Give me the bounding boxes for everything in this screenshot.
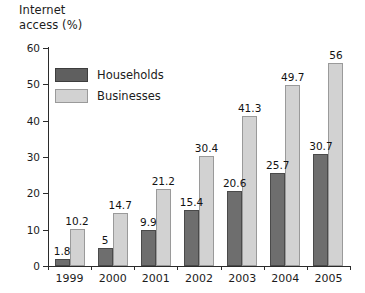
y-axis-tick-label-wrap: 30 — [8, 152, 40, 163]
x-axis-line — [48, 266, 350, 267]
x-axis-tick — [91, 266, 92, 270]
chart-axis-title: Internet access (%) — [19, 3, 139, 32]
households-swatch-icon — [55, 68, 88, 82]
x-axis-tick — [350, 266, 351, 270]
bar-value-label: 41.3 — [230, 103, 270, 114]
bar-value-label: 15.4 — [172, 197, 212, 208]
x-axis-tick-label: 2004 — [262, 272, 308, 285]
businesses-swatch-icon — [55, 89, 88, 103]
x-axis-tick — [134, 266, 135, 270]
bar-value-label: 10.2 — [57, 216, 97, 227]
bar-value-label: 25.7 — [258, 160, 298, 171]
y-axis-tick-label: 50 — [16, 79, 40, 90]
bar-households-2005 — [313, 154, 328, 266]
x-axis-tick — [48, 266, 49, 270]
legend-label-households: Households — [97, 69, 164, 81]
bar-businesses-2002 — [199, 156, 214, 266]
bar-households-2004 — [270, 173, 285, 266]
bar-households-2003 — [227, 191, 242, 266]
x-axis-tick — [177, 266, 178, 270]
legend-item-households: Households — [55, 66, 164, 84]
y-axis-tick-label-wrap: 50 — [8, 79, 40, 90]
x-axis-tick-label: 2005 — [305, 272, 351, 285]
bar-households-1999 — [55, 259, 70, 266]
y-axis-tick-label-wrap: 20 — [8, 188, 40, 199]
bar-value-label: 1.8 — [42, 246, 82, 257]
y-axis-tick-label-wrap: 60 — [8, 43, 40, 54]
bar-businesses-2003 — [242, 116, 257, 266]
bar-value-label: 9.9 — [128, 217, 168, 228]
bar-value-label: 14.7 — [100, 200, 140, 211]
y-axis-tick-label: 30 — [16, 152, 40, 163]
y-axis-tick-label: 20 — [16, 188, 40, 199]
bar-households-2000 — [98, 248, 113, 266]
y-axis-tick-label-wrap: 40 — [8, 116, 40, 127]
bar-households-2001 — [141, 230, 156, 266]
y-axis-tick-label: 10 — [16, 225, 40, 236]
bar-value-label: 20.6 — [215, 178, 255, 189]
y-axis-tick-label: 60 — [16, 43, 40, 54]
x-axis-tick — [307, 266, 308, 270]
x-axis-tick — [221, 266, 222, 270]
x-axis-tick-label: 2003 — [219, 272, 265, 285]
y-axis-tick-label: 40 — [16, 116, 40, 127]
bar-value-label: 30.4 — [187, 143, 227, 154]
bar-value-label: 30.7 — [301, 141, 341, 152]
x-axis-tick-label: 2001 — [133, 272, 179, 285]
y-axis-tick-label-wrap: 0 — [8, 261, 40, 272]
x-axis-tick-label: 2000 — [90, 272, 136, 285]
x-axis-tick-label: 2002 — [176, 272, 222, 285]
bar-value-label: 5 — [85, 235, 125, 246]
bar-households-2002 — [184, 210, 199, 266]
bar-value-label: 49.7 — [273, 72, 313, 83]
y-axis-tick-label-wrap: 10 — [8, 225, 40, 236]
bar-chart: Internet access (%) 0102030405060 199920… — [0, 0, 365, 293]
chart-legend: Households Businesses — [55, 66, 164, 108]
legend-label-businesses: Businesses — [97, 90, 161, 102]
bar-value-label: 21.2 — [143, 176, 183, 187]
legend-item-businesses: Businesses — [55, 87, 164, 105]
x-axis-tick-label: 1999 — [47, 272, 93, 285]
bar-value-label: 56 — [316, 50, 356, 61]
bar-businesses-2005 — [328, 63, 343, 266]
y-axis-tick-label: 0 — [16, 261, 40, 272]
x-axis-tick — [264, 266, 265, 270]
bar-businesses-2004 — [285, 85, 300, 266]
